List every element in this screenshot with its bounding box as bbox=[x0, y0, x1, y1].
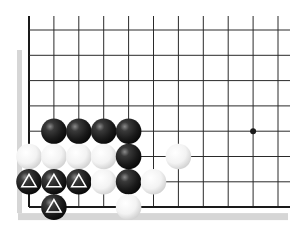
black-stone bbox=[41, 118, 67, 144]
black-stone bbox=[116, 118, 142, 144]
black-stone bbox=[41, 169, 67, 195]
black-stone bbox=[41, 194, 67, 220]
black-stone bbox=[16, 169, 42, 195]
white-stone bbox=[66, 144, 92, 170]
star-points bbox=[250, 128, 256, 134]
go-board bbox=[0, 0, 308, 233]
star-point bbox=[250, 128, 256, 134]
black-stone bbox=[66, 118, 92, 144]
white-stone bbox=[41, 144, 67, 170]
black-stone bbox=[116, 169, 142, 195]
black-stone bbox=[91, 118, 117, 144]
white-stone bbox=[141, 169, 167, 195]
white-stone bbox=[91, 169, 117, 195]
white-stone bbox=[166, 144, 192, 170]
black-stone bbox=[66, 169, 92, 195]
white-stone bbox=[16, 144, 42, 170]
black-stone bbox=[116, 144, 142, 170]
white-stone bbox=[91, 144, 117, 170]
white-stone bbox=[116, 194, 142, 220]
